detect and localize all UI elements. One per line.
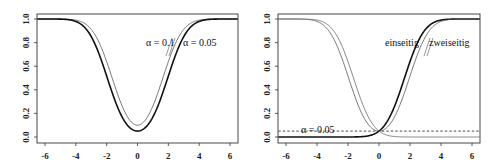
y-tick-label: 0.0 — [262, 131, 272, 143]
annotation-einseitig: einseitig — [385, 37, 419, 48]
x-tick-label: -6 — [41, 151, 49, 161]
y-axis: 0.00.20.40.60.81.0 — [21, 13, 37, 143]
annotation-alpha-level: α = 0.05 — [301, 124, 334, 135]
x-tick-label: 4 — [439, 151, 444, 161]
y-tick-label: 0.8 — [262, 36, 272, 48]
x-tick-label: -2 — [344, 151, 352, 161]
x-axis: -6-4-20246 — [282, 143, 475, 161]
power-curve — [37, 19, 237, 125]
left-power-plot: 0.00.20.40.60.81.0 -6-4-20246 α = 0.1 α … — [21, 13, 238, 161]
x-tick-label: -4 — [313, 151, 321, 161]
x-tick-label: 6 — [228, 151, 233, 161]
x-tick-label: 0 — [377, 151, 382, 161]
x-tick-label: -2 — [103, 151, 111, 161]
annotation-alpha-0-05: α = 0.05 — [183, 37, 216, 48]
x-tick-label: 6 — [470, 151, 475, 161]
y-tick-label: 0.0 — [21, 131, 31, 143]
x-tick-label: -4 — [72, 151, 80, 161]
y-tick-label: 1.0 — [21, 13, 31, 25]
y-axis: 0.00.20.40.60.81.0 — [262, 13, 278, 143]
plot-frame — [37, 14, 238, 143]
y-tick-label: 0.6 — [21, 60, 31, 72]
y-tick-label: 0.2 — [262, 107, 272, 119]
x-tick-label: 2 — [166, 151, 171, 161]
y-tick-label: 0.4 — [21, 84, 31, 96]
y-tick-label: 0.8 — [21, 36, 31, 48]
x-tick-label: 0 — [135, 151, 140, 161]
power-curves-figure: 0.00.20.40.60.81.0 -6-4-20246 α = 0.1 α … — [0, 0, 495, 166]
y-tick-label: 0.4 — [262, 84, 272, 96]
x-tick-label: 2 — [408, 151, 413, 161]
annotation-alpha-0-1: α = 0.1 — [146, 37, 174, 48]
power-curve — [37, 19, 237, 131]
x-tick-label: 4 — [197, 151, 202, 161]
y-tick-label: 0.6 — [262, 60, 272, 72]
x-tick-label: -6 — [282, 151, 290, 161]
annotation-zweiseitig: zweiseitig — [429, 37, 470, 48]
power-curve — [278, 19, 480, 131]
x-axis: -6-4-20246 — [41, 143, 233, 161]
y-tick-label: 1.0 — [262, 13, 272, 25]
right-power-plot: 0.00.20.40.60.81.0 -6-4-20246 einseitig … — [262, 13, 480, 161]
y-tick-label: 0.2 — [21, 107, 31, 119]
